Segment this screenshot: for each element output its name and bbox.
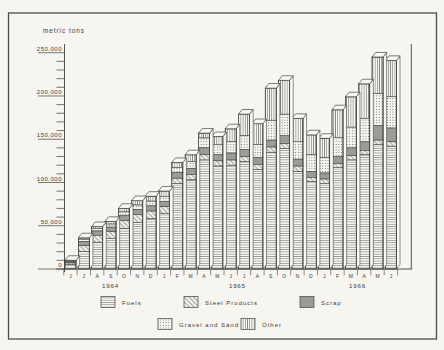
legend-label: Fuels (122, 300, 142, 306)
bar-segment-fuels (145, 219, 156, 269)
bar-segment-steel-products (279, 144, 290, 149)
bar-segment-other (372, 57, 383, 93)
stacked-bar (239, 110, 254, 269)
bar-segment-gravel-and-sand (172, 167, 183, 172)
month-label: F (336, 273, 339, 279)
bar-segment-other (158, 191, 169, 196)
bar-segment-steel-products (158, 207, 169, 214)
bar-segment-gravel-and-sand (292, 142, 303, 159)
bar-segment-gravel-and-sand (212, 145, 223, 155)
bar-side-face (303, 114, 307, 269)
bar-segment-gravel-and-sand (145, 201, 156, 206)
year-label-1964: 1964 (102, 282, 119, 289)
bar-segment-fuels (225, 165, 236, 269)
bar-segment-gravel-and-sand (105, 224, 116, 227)
bar-segment-scrap (132, 209, 143, 214)
bar-segment-steel-products (252, 164, 263, 169)
bar-segment-steel-products (332, 163, 343, 167)
stacked-bar (185, 150, 200, 269)
bar-segment-steel-products (225, 160, 236, 165)
bar-segment-other (132, 201, 143, 205)
bar-segment-fuels (92, 242, 103, 269)
bar-segment-steel-products (212, 161, 223, 166)
stacked-bar (265, 84, 280, 269)
legend-swatch (184, 297, 198, 308)
bar-side-face (169, 187, 173, 269)
bar-segment-gravel-and-sand (279, 114, 290, 136)
bar-segment-scrap (239, 150, 250, 157)
bar-segment-gravel-and-sand (92, 228, 103, 231)
bar-side-face (263, 119, 267, 269)
y-axis-unit-label: metric tons (43, 27, 85, 34)
bar-segment-scrap (279, 136, 290, 144)
stacked-bar (118, 204, 133, 269)
bar-side-face (250, 110, 254, 269)
bar-segment-fuels (305, 182, 316, 269)
bar-side-face (223, 132, 227, 269)
bar-segment-fuels (105, 239, 116, 269)
month-label: M (349, 273, 353, 279)
legend-swatch (158, 319, 172, 330)
stacked-bar (78, 233, 93, 269)
bar-segment-steel-products (132, 214, 143, 222)
bar-segment-scrap (158, 202, 169, 207)
bar-side-face (396, 56, 400, 269)
bar-segment-scrap (385, 128, 396, 142)
month-label: O (282, 273, 286, 279)
bar-side-face (116, 217, 120, 269)
bar-segment-steel-products (385, 142, 396, 146)
bar-segment-fuels (212, 166, 223, 269)
legend-label: Steel Products (205, 300, 258, 306)
bar-side-face (343, 105, 347, 269)
bar-segment-other (305, 135, 316, 155)
bar-side-face (89, 233, 93, 269)
y-axis-label: 200,000 (37, 89, 62, 95)
bar-segment-steel-products (239, 157, 250, 162)
bar-segment-steel-products (172, 178, 183, 183)
y-axis-label: 150,000 (37, 132, 62, 138)
bar-segment-gravel-and-sand (372, 93, 383, 125)
bar-segment-fuels (385, 146, 396, 269)
bar-side-face (156, 192, 160, 269)
bar-segment-steel-products (305, 177, 316, 181)
bar-segment-steel-products (292, 166, 303, 171)
month-label: O (122, 273, 126, 279)
bar-segment-scrap (359, 142, 370, 151)
stacked-bar (199, 129, 214, 269)
bar-segment-scrap (305, 171, 316, 177)
scanned-chart-page: metric tons 050,000100,000150,000200,000… (0, 0, 444, 350)
bar-segment-gravel-and-sand (239, 136, 250, 150)
bar-segment-other (185, 155, 196, 161)
bar-side-face (316, 130, 320, 269)
bar-segment-steel-products (145, 211, 156, 219)
bar-side-face (356, 92, 360, 269)
bar-side-face (383, 52, 387, 269)
bar-segment-gravel-and-sand (305, 155, 316, 171)
bar-segment-scrap (199, 148, 210, 155)
bar-segment-gravel-and-sand (158, 196, 169, 201)
bar-segment-other (239, 114, 250, 136)
bar-segment-other (265, 88, 276, 120)
bar-segment-scrap (78, 241, 89, 245)
legend-swatch (300, 297, 314, 308)
bar-side-face (196, 150, 200, 269)
month-label: D (149, 273, 153, 279)
bar-side-face (143, 196, 147, 269)
bar-segment-gravel-and-sand (332, 137, 343, 156)
stacked-bar (359, 79, 374, 269)
stacked-bar (385, 56, 400, 269)
stacked-bar (145, 192, 160, 269)
month-label: N (296, 273, 300, 279)
bar-segment-scrap (185, 168, 196, 174)
bar-segment-other (332, 110, 343, 138)
bar-side-face (290, 76, 294, 269)
y-axis-label: 0 (58, 262, 62, 268)
month-label: M (375, 273, 379, 279)
bar-segment-fuels (185, 180, 196, 269)
stacked-bar (212, 132, 227, 269)
bar-segment-fuels (65, 264, 76, 269)
bar-segment-scrap (145, 206, 156, 211)
bar-segment-fuels (319, 183, 330, 269)
bar-segment-other (345, 97, 356, 127)
legend-swatch (241, 319, 255, 330)
